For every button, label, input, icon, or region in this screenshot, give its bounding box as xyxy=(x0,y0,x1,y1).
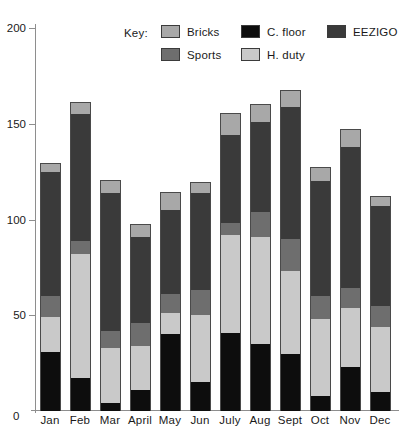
bar-segment-sports xyxy=(161,294,180,313)
bar-segment-sports xyxy=(131,323,150,346)
bar-segment-bricks xyxy=(281,91,300,106)
bar-nov[interactable] xyxy=(340,129,361,411)
bar-segment-eezigo xyxy=(101,193,120,331)
x-axis-label-july: July xyxy=(215,414,245,426)
bar-segment-c-floor xyxy=(341,367,360,411)
bar-sept[interactable] xyxy=(280,90,301,411)
bar-segment-eezigo xyxy=(311,181,330,296)
x-axis-label-sept: Sept xyxy=(275,414,305,426)
bar-segment-eezigo xyxy=(71,114,90,240)
bar-segment-c-floor xyxy=(71,378,90,411)
y-axis-label: 100 xyxy=(7,214,26,226)
bar-mar[interactable] xyxy=(100,180,121,411)
bar-segment-h-duty xyxy=(221,235,240,333)
bar-series-container xyxy=(35,28,395,411)
bar-segment-h-duty xyxy=(131,346,150,390)
bar-segment-bricks xyxy=(251,105,270,122)
x-axis-label-mar: Mar xyxy=(95,414,125,426)
x-axis-label-jan: Jan xyxy=(35,414,65,426)
bar-segment-sports xyxy=(221,223,240,234)
bar-may[interactable] xyxy=(160,192,181,411)
stacked-bar-chart: Key: Bricks Sports C. floor H. duty xyxy=(0,0,401,448)
bar-segment-c-floor xyxy=(161,334,180,411)
bar-segment-h-duty xyxy=(161,313,180,334)
y-axis-label: 150 xyxy=(7,118,26,130)
bar-segment-bricks xyxy=(131,225,150,236)
bar-segment-h-duty xyxy=(41,317,60,351)
x-axis-label-aug: Aug xyxy=(245,414,275,426)
bar-segment-sports xyxy=(311,296,330,319)
bar-segment-sports xyxy=(371,306,390,327)
x-axis-label-may: May xyxy=(155,414,185,426)
bar-segment-c-floor xyxy=(221,333,240,412)
bar-segment-eezigo xyxy=(41,172,60,296)
bar-segment-eezigo xyxy=(221,135,240,223)
bar-segment-h-duty xyxy=(191,315,210,382)
y-axis-label: 50 xyxy=(13,309,26,321)
bar-segment-eezigo xyxy=(281,107,300,239)
bar-segment-bricks xyxy=(341,130,360,147)
bar-oct[interactable] xyxy=(310,167,331,411)
x-axis-label-nov: Nov xyxy=(335,414,365,426)
bar-segment-h-duty xyxy=(71,254,90,378)
bar-segment-h-duty xyxy=(251,237,270,344)
bar-segment-h-duty xyxy=(341,308,360,367)
bar-segment-eezigo xyxy=(371,206,390,306)
bar-july[interactable] xyxy=(220,113,241,411)
bar-segment-sports xyxy=(101,331,120,348)
bar-segment-c-floor xyxy=(371,392,390,411)
y-axis-label: 200 xyxy=(7,22,26,34)
bar-segment-eezigo xyxy=(161,210,180,294)
bar-segment-bricks xyxy=(221,114,240,135)
bar-segment-sports xyxy=(281,239,300,272)
bar-segment-c-floor xyxy=(311,396,330,411)
x-axis-label-oct: Oct xyxy=(305,414,335,426)
bar-segment-c-floor xyxy=(191,382,210,411)
x-axis-label-feb: Feb xyxy=(65,414,95,426)
x-axis-label-jun: Jun xyxy=(185,414,215,426)
bar-april[interactable] xyxy=(130,224,151,411)
bar-segment-eezigo xyxy=(251,122,270,212)
bar-segment-sports xyxy=(71,241,90,254)
x-axis-label-april: April xyxy=(125,414,155,426)
bar-segment-eezigo xyxy=(341,147,360,289)
bar-segment-bricks xyxy=(71,103,90,114)
bar-segment-c-floor xyxy=(281,354,300,411)
bar-segment-h-duty xyxy=(101,348,120,404)
bar-segment-h-duty xyxy=(311,319,330,396)
bar-segment-c-floor xyxy=(251,344,270,411)
bar-jan[interactable] xyxy=(40,163,61,411)
y-axis-zero-label: 0 xyxy=(13,410,19,422)
bar-segment-bricks xyxy=(41,164,60,172)
bar-segment-eezigo xyxy=(131,237,150,323)
bar-segment-bricks xyxy=(101,181,120,192)
bar-feb[interactable] xyxy=(70,102,91,411)
bar-jun[interactable] xyxy=(190,182,211,411)
bar-segment-sports xyxy=(251,212,270,237)
bar-segment-eezigo xyxy=(191,193,210,291)
bar-segment-c-floor xyxy=(41,352,60,411)
bar-segment-sports xyxy=(191,290,210,315)
bar-segment-sports xyxy=(341,288,360,307)
bar-segment-bricks xyxy=(161,193,180,210)
bar-dec[interactable] xyxy=(370,196,391,411)
bar-segment-sports xyxy=(41,296,60,317)
x-axis-label-dec: Dec xyxy=(365,414,395,426)
plot-area: 050100150200 JanFebMarAprilMayJunJulyAug… xyxy=(35,28,395,411)
bar-segment-h-duty xyxy=(371,327,390,392)
bar-segment-h-duty xyxy=(281,271,300,353)
bar-segment-bricks xyxy=(191,183,210,193)
bar-segment-c-floor xyxy=(101,403,120,411)
bar-segment-bricks xyxy=(311,168,330,181)
bar-segment-c-floor xyxy=(131,390,150,411)
bar-segment-bricks xyxy=(371,197,390,207)
bar-aug[interactable] xyxy=(250,104,271,411)
